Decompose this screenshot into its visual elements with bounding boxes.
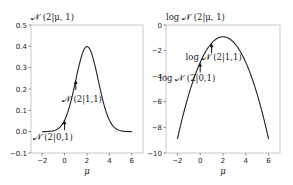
y-tick-label: 0.2 — [16, 86, 27, 94]
subplot-1: 𝒩 (2|μ, 1)−20246−0.10.00.10.20.30.40.5μ𝒩… — [10, 12, 143, 176]
figure: 𝒩 (2|μ, 1)−20246−0.10.00.10.20.30.40.5μ𝒩… — [0, 0, 293, 185]
y-tick-label: 0.1 — [16, 107, 27, 115]
series-line — [42, 47, 132, 132]
x-tick-label: 4 — [107, 157, 112, 165]
annotation-label: log 𝒩 (2|1,1) — [186, 52, 242, 63]
axes-frame — [166, 25, 280, 153]
x-tick-label: 6 — [266, 157, 271, 165]
y-tick-label: 0.4 — [16, 43, 28, 51]
x-tick-label: 0 — [198, 157, 202, 165]
x-tick-label: −2 — [172, 157, 182, 165]
y-tick-label: −0.1 — [10, 150, 27, 158]
x-tick-label: 2 — [221, 157, 225, 165]
annotation-arrowhead — [74, 80, 78, 84]
subplot-2: log 𝒩 (2|μ, 1)−20246−10−8−6−4−20μlog 𝒩 (… — [147, 12, 280, 176]
x-tick-label: −2 — [37, 157, 47, 165]
y-tick-label: −10 — [147, 150, 162, 158]
y-tick-label: 0 — [158, 22, 162, 30]
y-tick-label: −6 — [152, 98, 163, 106]
x-tick-label: 6 — [130, 157, 135, 165]
y-tick-label: 0.3 — [16, 64, 27, 72]
annotation-label: 𝒩 (2|0,1) — [33, 132, 73, 143]
x-tick-label: 2 — [85, 157, 89, 165]
chart-title: 𝒩 (2|μ, 1) — [31, 12, 74, 23]
x-axis-label: μ — [220, 166, 226, 176]
annotation-label: log 𝒩 (2|0,1) — [159, 73, 215, 84]
x-tick-label: 4 — [244, 157, 249, 165]
y-tick-label: −2 — [152, 47, 162, 55]
y-tick-label: 0.0 — [16, 128, 27, 136]
y-tick-label: 0.5 — [16, 22, 27, 30]
x-axis-label: μ — [84, 166, 90, 176]
x-tick-label: 0 — [62, 157, 66, 165]
annotation-label: 𝒩 (2|1,1) — [62, 94, 102, 105]
chart-title: log 𝒩 (2|μ, 1) — [166, 12, 225, 23]
y-tick-label: −8 — [152, 124, 162, 132]
